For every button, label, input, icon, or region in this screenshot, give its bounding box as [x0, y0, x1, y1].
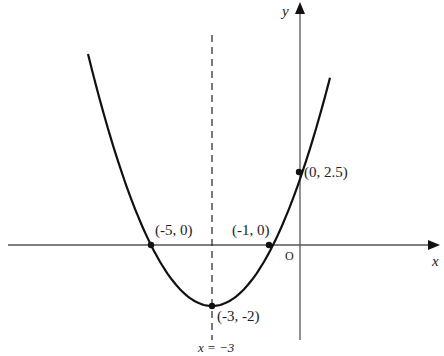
y-axis-label: y [282, 4, 289, 19]
point-label-vertex: (-3, -2) [217, 309, 259, 324]
x-axis-label: x [432, 254, 439, 269]
parabola-curve [88, 54, 330, 306]
point-label-minus5-0: (-5, 0) [155, 223, 193, 238]
point-label-minus1-0: (-1, 0) [232, 223, 270, 238]
axis-of-symmetry-label: x = −3 [198, 341, 234, 354]
point-y-intercept [296, 169, 302, 175]
parabola-diagram: y x O (-5, 0) (-1, 0) (-3, -2) (0, 2.5) … [0, 0, 444, 356]
point-minus1-0 [266, 242, 272, 248]
graph-canvas [0, 0, 444, 356]
point-label-y-intercept: (0, 2.5) [304, 165, 348, 180]
origin-label: O [285, 250, 294, 262]
point-minus5-0 [148, 242, 154, 248]
point-vertex [209, 303, 215, 309]
y-axis-arrow-icon [295, 2, 305, 14]
x-axis-arrow-icon [428, 240, 440, 250]
